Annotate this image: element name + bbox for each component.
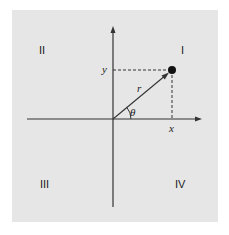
theta-label: θ bbox=[130, 106, 135, 118]
quadrant-label-i: I bbox=[181, 44, 184, 56]
point-marker bbox=[168, 66, 176, 74]
quadrant-label-iii: III bbox=[40, 178, 49, 190]
radius-label: r bbox=[137, 82, 141, 94]
x-axis-arrow-icon bbox=[195, 117, 202, 122]
quadrant-label-ii: II bbox=[39, 44, 45, 56]
x-coordinate-label: x bbox=[169, 122, 174, 134]
coordinate-plane bbox=[0, 0, 229, 235]
quadrant-label-iv: IV bbox=[175, 178, 185, 190]
y-axis-arrow-icon bbox=[111, 26, 116, 33]
y-coordinate-label: y bbox=[102, 63, 107, 75]
